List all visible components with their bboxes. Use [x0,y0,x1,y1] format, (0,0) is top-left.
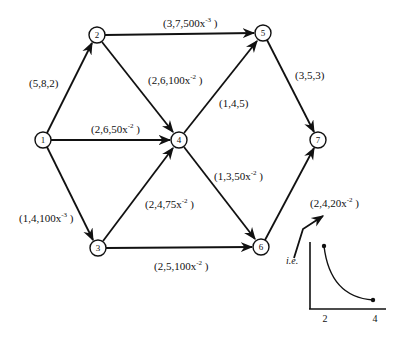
edge-2-5 [105,33,254,35]
edge-3-6 [106,247,252,248]
edge-label-5-7: (3,5,3) [295,69,325,82]
node-4-label: 4 [177,135,182,145]
edge-label-2-5: (3,7,500x-3 ) [163,16,218,30]
network-diagram: 1 2 3 4 5 6 7 (5,8,2) (2,6,50x-2 ) [0,0,402,340]
edge-label-1-2: (5,8,2) [29,77,59,90]
node-3: 3 [90,240,106,256]
edge-label-4-5: (1,4,5) [219,97,249,110]
node-6: 6 [253,239,269,255]
inset-plot: 2 4 [309,242,386,324]
node-4: 4 [171,132,187,148]
edge-4-5 [184,41,257,133]
node-2: 2 [89,27,105,43]
inset-curve-start-dot [322,244,326,248]
node-5-label: 5 [261,28,266,38]
edge-label-3-6: (2,5,100x-2 ) [154,259,209,273]
node-1-label: 1 [41,135,46,145]
node-5: 5 [255,25,271,41]
edge-5-7 [267,40,314,132]
edge-2-4 [102,42,173,132]
inset-curve-end-dot [371,298,375,302]
node-6-label: 6 [259,242,264,252]
edge-label-3-4: (2,4,75x-2 ) [145,197,194,211]
edge-1-3 [47,147,93,240]
ie-annotation: i.e. [286,216,323,266]
node-2-label: 2 [95,30,100,40]
inset-tick-4: 4 [373,313,378,324]
ie-label: i.e. [286,255,298,266]
edge-label-1-3: (1,4,100x-3 ) [19,211,74,225]
node-7: 7 [310,132,326,148]
node-3-label: 3 [96,243,101,253]
inset-curve [324,246,373,300]
edge-4-6 [184,147,255,239]
node-7-label: 7 [316,135,321,145]
edge-label-4-6: (1,3,50x-2 ) [214,169,263,183]
node-1: 1 [35,132,51,148]
inset-tick-2: 2 [323,313,328,324]
edge-label-6-7: (2,4,20x-2 ) [310,196,359,210]
edge-3-4 [103,148,173,241]
edge-labels: (5,8,2) (2,6,50x-2 ) (1,4,100x-3 ) (3,7,… [19,16,359,273]
ie-pointer-arrow [294,216,323,258]
edge-label-2-4: (2,6,100x-2 ) [148,73,203,87]
edge-label-1-4: (2,6,50x-2 ) [91,122,140,136]
